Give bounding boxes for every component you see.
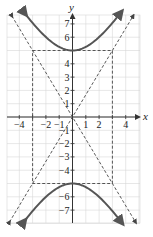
y-tick-label: 4 — [65, 58, 70, 69]
y-tick-label: −1 — [59, 125, 70, 136]
y-tick-label: 1 — [65, 98, 70, 109]
x-tick-label: −2 — [41, 119, 52, 130]
asymptote-negative — [12, 16, 136, 222]
axes — [7, 16, 138, 223]
y-tick-label: −4 — [59, 165, 70, 176]
y-tick-label: 6 — [65, 32, 70, 43]
y-tick-label: 7 — [65, 18, 70, 29]
x-tick-label: −4 — [14, 119, 25, 130]
x-axis-label: x — [142, 110, 148, 122]
y-tick-label: −2 — [59, 138, 70, 149]
x-tick-label: 2 — [97, 119, 102, 130]
x-tick-label: 4 — [123, 119, 128, 130]
y-tick-label: 2 — [65, 85, 70, 96]
hyperbola-graph: −4−2−1124764321−1−2−3−4−6−7 x y — [0, 0, 153, 237]
y-tick-label: 3 — [65, 72, 70, 83]
x-tick-label: 1 — [83, 119, 88, 130]
y-tick-label: −7 — [59, 205, 70, 216]
y-axis-label: y — [68, 1, 74, 13]
y-tick-label: −3 — [59, 151, 70, 162]
y-tick-label: −6 — [59, 191, 70, 202]
asymptote-positive — [9, 16, 133, 222]
